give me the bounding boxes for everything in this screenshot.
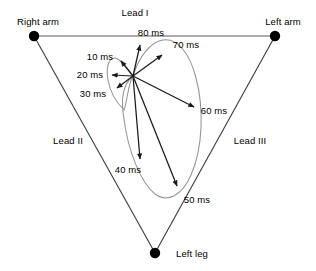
- lead-label-iii: Lead III: [234, 136, 267, 146]
- vector-label-30ms: 30 ms: [80, 89, 106, 99]
- figure-canvas: Right arm Left arm Left leg Lead I Lead …: [0, 0, 316, 271]
- vector-label-40ms: 40 ms: [115, 165, 141, 175]
- vector-60ms: [133, 76, 194, 107]
- electrode-left-leg: [150, 248, 160, 258]
- electrode-left-arm: [270, 31, 280, 41]
- electrode-label-right-arm: Right arm: [17, 17, 59, 27]
- vector-20ms: [112, 75, 133, 76]
- vector-label-20ms: 20 ms: [77, 70, 103, 80]
- initial-loop: [107, 58, 133, 110]
- vector-label-60ms: 60 ms: [201, 106, 227, 116]
- lead-label-ii: Lead II: [53, 136, 83, 146]
- vector-label-70ms: 70 ms: [173, 40, 199, 50]
- vector-label-80ms: 80 ms: [138, 28, 164, 38]
- lead-label-i: Lead I: [121, 8, 148, 18]
- vector-diagram-svg: [0, 0, 316, 271]
- electrode-label-left-arm: Left arm: [265, 17, 301, 27]
- vector-label-10ms: 10 ms: [87, 52, 113, 62]
- vector-40ms: [133, 76, 140, 159]
- vector-10ms: [121, 61, 133, 76]
- electrode-label-left-leg: Left leg: [176, 249, 208, 259]
- vector-label-50ms: 50 ms: [184, 195, 210, 205]
- electrode-right-arm: [29, 31, 39, 41]
